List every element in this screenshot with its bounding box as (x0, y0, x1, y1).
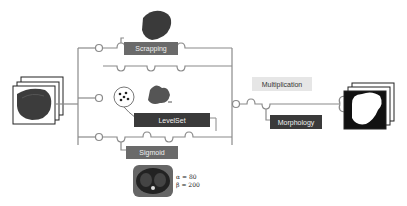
alpha-value: α = 80 (176, 173, 200, 181)
sigmoid-params: α = 80 β = 200 (176, 173, 200, 189)
seed-points-icon (114, 87, 136, 118)
track-levelset (78, 95, 103, 102)
scrapping-box: Scrapping (124, 42, 178, 55)
input-image-stack-icon (13, 77, 63, 124)
output-mask-stack-icon (344, 83, 394, 129)
levelset-label: LevelSet (158, 117, 185, 124)
levelset-result-icon (148, 85, 170, 104)
pipeline-diagram (0, 0, 407, 206)
morphology-box: Morphology (270, 115, 322, 129)
beta-value: β = 200 (176, 181, 200, 189)
multiplication-box: Multiplication (252, 77, 312, 91)
sigmoid-label: Sigmoid (139, 149, 164, 156)
sigmoid-box: Sigmoid (126, 146, 178, 159)
morphology-label: Morphology (278, 119, 315, 126)
liver-segment-icon (142, 11, 171, 40)
multiplication-label: Multiplication (262, 81, 302, 88)
scrapping-label: Scrapping (135, 45, 167, 52)
levelset-box: LevelSet (134, 113, 210, 127)
ct-slice-icon (133, 165, 173, 197)
